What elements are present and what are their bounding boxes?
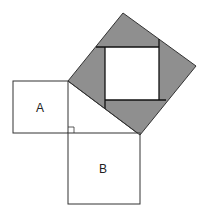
inner-square xyxy=(105,47,159,100)
label-b: B xyxy=(99,162,107,176)
right-angle-marker xyxy=(68,127,74,133)
pythagorean-diagram: A B xyxy=(0,0,203,213)
label-a: A xyxy=(36,101,44,115)
